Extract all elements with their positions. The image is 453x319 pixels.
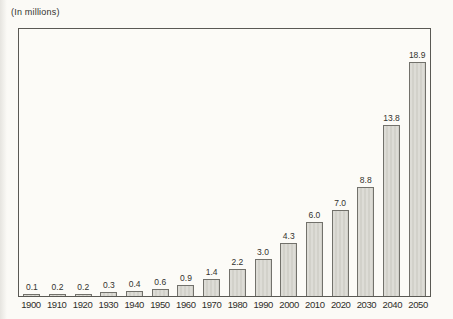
x-tick-label: 1950: [147, 299, 173, 310]
bar-value-label: 0.2: [77, 282, 89, 292]
bar-value-label: 6.0: [308, 210, 320, 220]
bar-column: 4.3: [276, 231, 302, 296]
x-tick-label: 1960: [173, 299, 199, 310]
bar-value-label: 13.8: [383, 113, 400, 123]
bar-value-label: 0.9: [180, 273, 192, 283]
bar-value-label: 18.9: [409, 50, 426, 60]
bar: [383, 125, 400, 296]
population-bar-chart: (In millions) 0.10.20.20.30.40.60.91.42.…: [0, 0, 453, 319]
x-tick-label: 1920: [70, 299, 96, 310]
bar: [280, 243, 297, 296]
bar: [152, 289, 169, 296]
x-tick-label: 2030: [354, 299, 380, 310]
bar-column: 2.2: [225, 257, 251, 296]
x-tick-label: 2040: [379, 299, 405, 310]
bar: [49, 294, 66, 297]
bar-column: 7.0: [327, 198, 353, 297]
x-tick-label: 2050: [405, 299, 431, 310]
bar: [306, 222, 323, 296]
bar-column: 0.2: [45, 282, 71, 297]
bar-value-label: 2.2: [231, 257, 243, 267]
bar-column: 6.0: [302, 210, 328, 296]
chart-units-label: (In millions): [11, 7, 60, 17]
x-tick-label: 2000: [276, 299, 302, 310]
bar: [357, 187, 374, 296]
bar: [100, 292, 117, 296]
bar-column: 0.3: [96, 280, 122, 296]
x-axis: 1900191019201930194019501960197019801990…: [18, 299, 431, 310]
bar-column: 8.8: [353, 175, 379, 296]
x-tick-label: 1940: [121, 299, 147, 310]
bar-column: 0.4: [122, 279, 148, 296]
bar-value-label: 0.2: [52, 282, 64, 292]
bar-value-label: 7.0: [334, 198, 346, 208]
bar: [229, 269, 246, 296]
bar-value-label: 0.3: [103, 280, 115, 290]
bar-column: 0.9: [173, 273, 199, 296]
plot-area: 0.10.20.20.30.40.60.91.42.23.04.36.07.08…: [18, 28, 431, 297]
bar-column: 1.4: [199, 267, 225, 296]
x-tick-label: 1970: [199, 299, 225, 310]
bar: [332, 210, 349, 297]
bar: [126, 291, 143, 296]
bar-value-label: 8.8: [360, 175, 372, 185]
bar-value-label: 1.4: [206, 267, 218, 277]
bar: [409, 62, 426, 296]
bar: [23, 294, 40, 296]
bar: [177, 285, 194, 296]
bar-column: 0.1: [19, 282, 45, 296]
bar: [255, 259, 272, 296]
bar-column: 0.6: [147, 277, 173, 296]
bar-value-label: 0.1: [26, 282, 38, 292]
bar-value-label: 3.0: [257, 247, 269, 257]
bar-column: 18.9: [404, 50, 430, 296]
x-tick-label: 2020: [328, 299, 354, 310]
x-tick-label: 1930: [95, 299, 121, 310]
x-tick-label: 1910: [44, 299, 70, 310]
bar-value-label: 0.4: [129, 279, 141, 289]
bar-column: 0.2: [70, 282, 96, 297]
bar-column: 13.8: [379, 113, 405, 296]
x-tick-label: 1900: [18, 299, 44, 310]
bar-value-label: 0.6: [154, 277, 166, 287]
bars-row: 0.10.20.20.30.40.60.91.42.23.04.36.07.08…: [19, 29, 430, 296]
bar-column: 3.0: [250, 247, 276, 296]
bar-value-label: 4.3: [283, 231, 295, 241]
bar: [203, 279, 220, 296]
x-tick-label: 1990: [250, 299, 276, 310]
x-tick-label: 1980: [225, 299, 251, 310]
bar: [75, 294, 92, 297]
x-tick-label: 2010: [302, 299, 328, 310]
